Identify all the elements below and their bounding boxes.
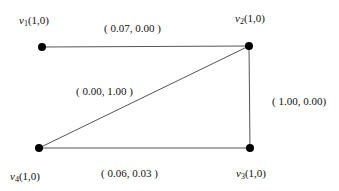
node-label-v1: v1(1,0)	[19, 15, 49, 28]
edge-label-v4-v2: ( 0.00, 1.00 )	[76, 86, 133, 97]
node-label-v2: v2(1,0)	[235, 13, 265, 26]
node-v4	[35, 144, 43, 152]
node-value: (1,0)	[244, 12, 265, 24]
node-value: (1,0)	[245, 167, 266, 179]
node-v3	[246, 144, 254, 152]
edge-v4-v2	[39, 46, 249, 148]
edge-label-v2-v3: ( 1.00, 0.00)	[272, 96, 326, 107]
node-label-v3: v3(1,0)	[236, 168, 266, 181]
node-value: (1,0)	[28, 14, 49, 26]
edge-v1-v2	[42, 46, 249, 47]
graph-diagram: v1(1,0) v2(1,0) v3(1,0) v4(1,0) ( 0.07, …	[0, 0, 339, 191]
node-value: (1,0)	[19, 170, 40, 182]
node-v2	[245, 42, 253, 50]
edge-v2-v3	[249, 46, 250, 148]
node-v1	[38, 43, 46, 51]
edge-label-v1-v2: ( 0.07, 0.00 )	[104, 23, 161, 34]
node-label-v4: v4(1,0)	[10, 171, 40, 184]
edge-label-v4-v3: ( 0.06, 0.03 )	[101, 168, 158, 179]
